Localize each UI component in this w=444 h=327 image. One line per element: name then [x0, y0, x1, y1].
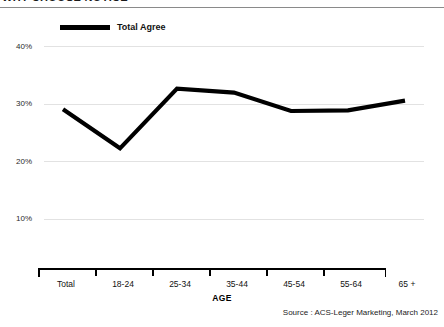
x-axis-label-65-plus: 65 + — [399, 279, 416, 289]
x-axis-label-18-24: 18-24 — [112, 279, 134, 289]
series-line-total-agree — [63, 89, 405, 149]
y-axis-label-20: 20% — [16, 157, 42, 166]
legend-swatch-total-agree — [60, 25, 110, 30]
slide-title-strip: WHY CHOOSE NOTICE — [0, 0, 444, 7]
x-axis-label-55-64: 55-64 — [340, 279, 362, 289]
x-axis-label-25-34: 25-34 — [169, 279, 191, 289]
x-tick-1 — [95, 268, 97, 276]
y-axis-label-40: 40% — [16, 42, 42, 51]
y-axis-label-30: 30% — [16, 99, 42, 108]
legend-label-total-agree: Total Agree — [117, 22, 166, 32]
title-divider — [0, 7, 444, 8]
x-tick-6 — [385, 268, 387, 277]
x-tick-3 — [209, 268, 211, 276]
x-axis-label-35-44: 35-44 — [226, 279, 248, 289]
x-axis-labels: Total 18-24 25-34 35-44 45-54 55-64 65 + — [38, 279, 386, 293]
x-tick-5 — [323, 268, 325, 276]
slide-canvas: WHY CHOOSE NOTICE Total Agree 40% 30% 20… — [0, 0, 444, 327]
y-axis-label-10: 10% — [16, 214, 42, 223]
x-axis-label-45-54: 45-54 — [283, 279, 305, 289]
x-axis-title: AGE — [0, 293, 444, 303]
source-note: Source : ACS-Leger Marketing, March 2012 — [283, 308, 438, 317]
x-tick-2 — [152, 268, 154, 276]
x-axis-line — [38, 268, 386, 270]
x-axis-label-total: Total — [57, 279, 75, 289]
x-tick-0 — [38, 268, 40, 277]
series-total-agree — [44, 38, 424, 266]
x-tick-4 — [266, 268, 268, 276]
chart-legend: Total Agree — [60, 22, 166, 32]
x-axis — [38, 268, 386, 276]
page-title: WHY CHOOSE NOTICE — [0, 0, 444, 4]
